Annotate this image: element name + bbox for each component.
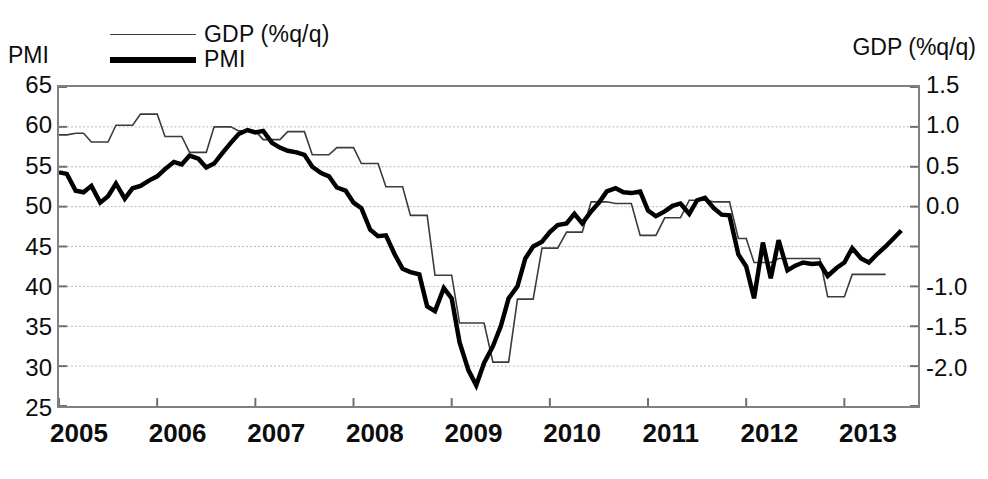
left-tick-label: 45 bbox=[25, 235, 52, 259]
right-tick-label: -2.0 bbox=[926, 356, 967, 380]
x-tick-label: 2005 bbox=[50, 418, 108, 448]
x-tick-label: 2012 bbox=[740, 418, 798, 448]
right-tick-label: -1.0 bbox=[926, 275, 967, 299]
left-tick-label: 65 bbox=[25, 73, 52, 97]
plot-area bbox=[57, 85, 920, 408]
chart-legend: GDP (%q/q) PMI bbox=[110, 22, 330, 72]
x-tick-label: 2006 bbox=[149, 418, 207, 448]
right-axis-ticks: 1.51.00.50.0-1.0-1.5-2.0 bbox=[926, 0, 988, 479]
legend-item-gdp: GDP (%q/q) bbox=[110, 22, 330, 47]
left-tick-label: 40 bbox=[25, 275, 52, 299]
left-tick-label: 50 bbox=[25, 194, 52, 218]
left-tick-label: 55 bbox=[25, 154, 52, 178]
legend-item-pmi: PMI bbox=[110, 47, 330, 72]
legend-label-gdp: GDP (%q/q) bbox=[204, 23, 330, 46]
chart-canvas bbox=[59, 87, 918, 406]
x-axis-ticks: 200520062007200820092010201120122013 bbox=[0, 418, 988, 458]
x-tick-label: 2007 bbox=[247, 418, 305, 448]
legend-line-gdp-icon bbox=[110, 29, 196, 41]
right-tick-label: 0.0 bbox=[926, 194, 959, 218]
right-tick-label: 1.5 bbox=[926, 73, 959, 97]
x-tick-label: 2008 bbox=[346, 418, 404, 448]
left-tick-label: 25 bbox=[25, 396, 52, 420]
left-tick-label: 30 bbox=[25, 356, 52, 380]
left-tick-label: 60 bbox=[25, 113, 52, 137]
right-tick-label: 0.5 bbox=[926, 154, 959, 178]
left-tick-label: 35 bbox=[25, 315, 52, 339]
legend-label-pmi: PMI bbox=[204, 48, 246, 71]
right-tick-label: -1.5 bbox=[926, 315, 967, 339]
x-tick-label: 2011 bbox=[643, 418, 699, 448]
left-axis-ticks: 253035404550556065 bbox=[0, 0, 52, 479]
x-tick-label: 2010 bbox=[543, 418, 601, 448]
chart-title-strip bbox=[0, 0, 988, 14]
right-tick-label: 1.0 bbox=[926, 113, 959, 137]
x-tick-label: 2013 bbox=[839, 418, 897, 448]
legend-line-pmi-icon bbox=[110, 54, 196, 66]
x-tick-label: 2009 bbox=[445, 418, 503, 448]
